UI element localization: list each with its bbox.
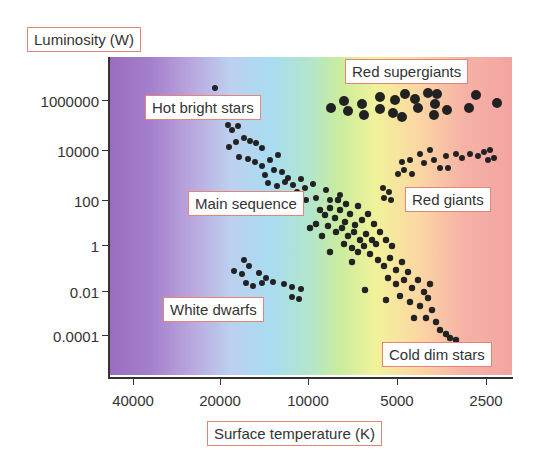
label-hot-bright-stars: Hot bright stars bbox=[145, 95, 261, 120]
x-tick-label: 5000 bbox=[380, 392, 413, 409]
x-tick-mark bbox=[220, 378, 221, 385]
y-tick-mark bbox=[102, 245, 109, 246]
label-cold-dim-stars: Cold dim stars bbox=[382, 342, 492, 367]
x-tick-label: 2500 bbox=[469, 392, 502, 409]
y-tick-label: 100 bbox=[74, 193, 99, 210]
label-white-dwarfs: White dwarfs bbox=[163, 297, 264, 322]
label-main-sequence: Main sequence bbox=[188, 191, 304, 216]
x-tick-mark bbox=[308, 378, 309, 385]
y-tick-label: 1 bbox=[91, 238, 99, 255]
label-red-supergiants: Red supergiants bbox=[345, 59, 468, 84]
x-tick-label: 40000 bbox=[112, 392, 154, 409]
x-axis-line bbox=[108, 377, 513, 379]
x-tick-label: 20000 bbox=[199, 392, 241, 409]
y-tick-mark bbox=[102, 150, 109, 151]
x-tick-mark bbox=[397, 378, 398, 385]
y-axis-title: Luminosity (W) bbox=[27, 27, 141, 52]
y-tick-label: 0.0001 bbox=[53, 328, 99, 345]
y-tick-mark bbox=[102, 291, 109, 292]
y-tick-label: 1000000 bbox=[41, 93, 99, 110]
x-tick-mark bbox=[486, 378, 487, 385]
y-tick-mark bbox=[102, 200, 109, 201]
x-tick-label: 10000 bbox=[287, 392, 329, 409]
x-tick-mark bbox=[133, 378, 134, 385]
y-axis-line bbox=[108, 57, 110, 378]
y-tick-mark bbox=[102, 335, 109, 336]
label-red-giants: Red giants bbox=[405, 187, 491, 212]
y-tick-label: 0.01 bbox=[70, 284, 99, 301]
y-tick-mark bbox=[102, 100, 109, 101]
x-axis-title: Surface temperature (K) bbox=[207, 421, 382, 446]
y-tick-label: 10000 bbox=[57, 143, 99, 160]
